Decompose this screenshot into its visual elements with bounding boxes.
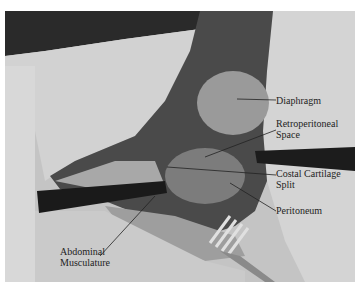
surgical-photo [5,11,355,282]
label-peritoneum: Peritoneum [276,205,322,216]
label-line: Abdominal [60,246,110,257]
label-abdominal-musculature: Abdominal Musculature [60,246,110,268]
label-line: Split [276,179,341,190]
label-costal-cartilage-split: Costal Cartilage Split [276,168,341,190]
label-diaphragm: Diaphragm [276,95,321,106]
label-retroperitoneal-space: Retroperitoneal Space [276,118,338,140]
photo-illustration [5,11,355,282]
label-line: Costal Cartilage [276,168,341,179]
label-line: Musculature [60,257,110,268]
label-line: Retroperitoneal [276,118,338,129]
label-line: Space [276,129,338,140]
